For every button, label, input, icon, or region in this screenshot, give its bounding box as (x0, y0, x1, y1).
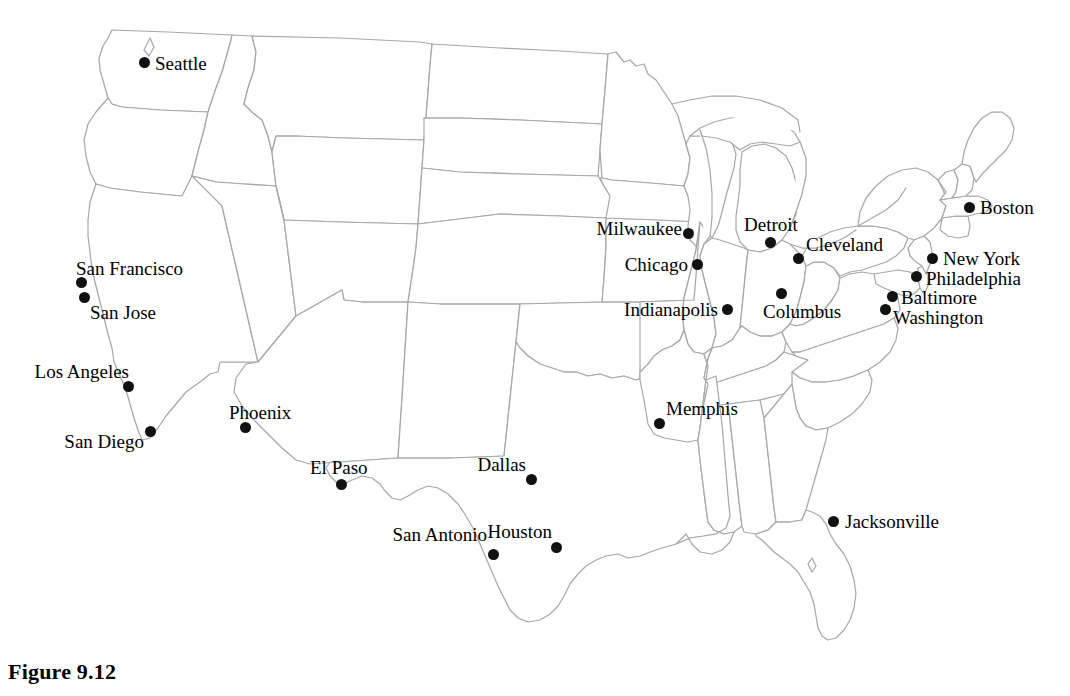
city-marker-cleveland[interactable] (793, 253, 804, 264)
figure-caption: Figure 9.12 (8, 659, 116, 685)
city-label-boston: Boston (980, 198, 1034, 217)
city-marker-los-angeles[interactable] (123, 381, 134, 392)
city-label-detroit: Detroit (744, 215, 798, 234)
city-marker-columbus[interactable] (776, 288, 787, 299)
city-marker-houston[interactable] (551, 542, 562, 553)
city-marker-philadelphia[interactable] (911, 271, 922, 282)
city-label-houston: Houston (488, 522, 552, 541)
city-label-indianapolis: Indianapolis (624, 300, 718, 319)
city-marker-baltimore[interactable] (887, 291, 898, 302)
city-label-san-diego: San Diego (64, 432, 144, 451)
city-label-jacksonville: Jacksonville (845, 512, 939, 531)
us-map: SeattleSan FranciscoSan JoseLos AngelesS… (0, 0, 1070, 652)
city-marker-el-paso[interactable] (336, 479, 347, 490)
city-marker-milwaukee[interactable] (683, 228, 694, 239)
city-marker-boston[interactable] (964, 202, 975, 213)
city-marker-new-york[interactable] (927, 253, 938, 264)
city-marker-san-antonio[interactable] (488, 549, 499, 560)
city-label-new-york: New York (943, 249, 1020, 268)
city-label-el-paso: El Paso (310, 458, 368, 477)
city-label-san-jose: San Jose (90, 303, 156, 322)
city-marker-phoenix[interactable] (240, 422, 251, 433)
city-label-columbus: Columbus (763, 302, 841, 321)
city-marker-memphis[interactable] (654, 418, 665, 429)
city-marker-indianapolis[interactable] (722, 304, 733, 315)
city-label-cleveland: Cleveland (806, 235, 883, 254)
figure-container: SeattleSan FranciscoSan JoseLos AngelesS… (0, 0, 1070, 696)
city-marker-detroit[interactable] (765, 237, 776, 248)
city-marker-jacksonville[interactable] (828, 516, 839, 527)
city-label-dallas: Dallas (477, 455, 526, 474)
city-label-philadelphia: Philadelphia (926, 269, 1021, 288)
city-label-phoenix: Phoenix (229, 403, 291, 422)
city-label-washington: Washington (893, 308, 983, 327)
city-marker-seattle[interactable] (139, 57, 150, 68)
city-label-san-antonio: San Antonio (393, 525, 487, 544)
city-label-memphis: Memphis (666, 399, 738, 418)
city-label-baltimore: Baltimore (901, 288, 977, 307)
city-marker-san-jose[interactable] (79, 292, 90, 303)
city-label-seattle: Seattle (155, 54, 207, 73)
city-label-milwaukee: Milwaukee (597, 219, 682, 238)
city-marker-dallas[interactable] (526, 474, 537, 485)
city-marker-san-diego[interactable] (145, 426, 156, 437)
city-label-san-francisco: San Francisco (76, 259, 183, 278)
city-markers-layer: SeattleSan FranciscoSan JoseLos AngelesS… (0, 0, 1070, 652)
city-marker-chicago[interactable] (692, 259, 703, 270)
city-label-los-angeles: Los Angeles (35, 362, 129, 381)
city-label-chicago: Chicago (625, 255, 688, 274)
city-marker-washington[interactable] (880, 304, 891, 315)
